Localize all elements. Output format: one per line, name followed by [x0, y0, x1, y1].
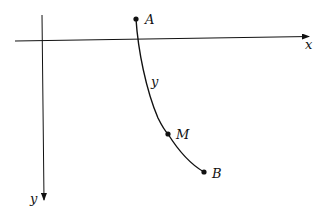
curve-AB	[136, 19, 204, 172]
diagram-canvas: x y y A M B	[0, 0, 328, 215]
point-M	[165, 131, 170, 136]
point-A	[133, 16, 138, 21]
point-A-label: A	[144, 12, 154, 27]
point-B	[201, 169, 206, 174]
point-B-label: B	[211, 166, 222, 181]
x-axis	[15, 37, 309, 42]
y-axis-label: y	[29, 191, 38, 206]
x-axis-label: x	[305, 37, 313, 52]
y-axis	[42, 15, 44, 200]
curve-label: y	[150, 74, 159, 89]
point-M-label: M	[175, 127, 190, 142]
